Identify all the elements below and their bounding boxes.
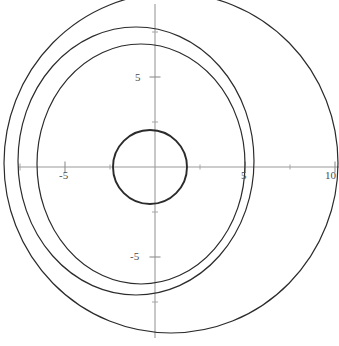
polar-plot-figure: -5 5 10 5 -5 bbox=[0, 0, 339, 346]
x-axis-label-pos10: 10 bbox=[325, 170, 336, 181]
curve-middle-small bbox=[37, 44, 245, 284]
plot-canvas bbox=[0, 0, 339, 346]
y-axis-label-neg5: -5 bbox=[130, 251, 139, 262]
y-axis-label-pos5: 5 bbox=[135, 72, 141, 83]
x-axis-label-pos5: 5 bbox=[241, 170, 247, 181]
x-axis-label-neg5: -5 bbox=[59, 170, 68, 181]
